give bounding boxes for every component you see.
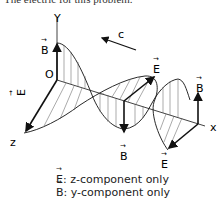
e-label-origin: E — [15, 89, 28, 96]
b-label-right: B — [196, 82, 204, 95]
e-vector-origin — [26, 80, 57, 131]
x-axis-label: x — [210, 121, 217, 134]
caption-b-text: : y-component only — [64, 186, 170, 199]
origin-label: O — [45, 68, 54, 81]
c-label: c — [118, 28, 124, 41]
e-label-mid: E — [153, 63, 160, 76]
x-axis — [57, 80, 205, 126]
b-label-origin: B — [41, 44, 49, 57]
caption-b: B: y-component only — [56, 186, 170, 199]
e-vector-mid — [124, 77, 154, 101]
caption-b-symbol: B — [56, 186, 64, 199]
b-label-mid: B — [120, 150, 128, 163]
caption-e-text: : z-component only — [63, 173, 169, 186]
e-vector-right — [169, 124, 198, 148]
z-axis-label: z — [10, 136, 16, 149]
y-axis-label: Y — [54, 12, 61, 25]
caption-e: E: z-component only — [56, 173, 169, 186]
e-label-right: E — [161, 158, 168, 171]
